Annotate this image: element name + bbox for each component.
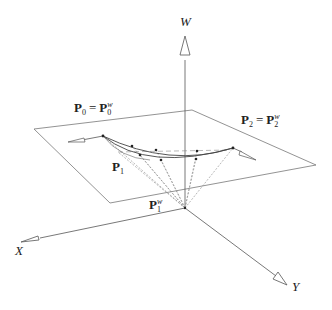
tangent-p2-arrowhead-icon (239, 151, 256, 160)
x-axis (40, 208, 185, 238)
tangent-p0-arrowhead-icon (68, 138, 85, 142)
w-axis-label: W (180, 15, 191, 28)
diagram-canvas: W X Y P0=P0w P2=P2w P1 P1w (0, 0, 332, 310)
label-p2-equals-p2w: P2=P2w (241, 113, 280, 129)
diagram-svg (0, 0, 332, 310)
y-axis-arrowhead-icon (273, 272, 287, 285)
w-axis-arrowhead-icon (180, 36, 190, 55)
dashed-p1-line (118, 150, 230, 152)
y-axis-label: Y (292, 280, 299, 293)
x-axis-label: X (15, 244, 23, 257)
curve-lower (103, 136, 233, 158)
y-axis (185, 208, 276, 276)
label-p0-equals-p0w: P0=P0w (74, 101, 113, 117)
x-axis-arrowhead-icon (21, 236, 39, 242)
tangent-p0 (82, 136, 103, 140)
label-p1w: P1w (149, 198, 162, 214)
label-p1: P1 (112, 160, 124, 176)
